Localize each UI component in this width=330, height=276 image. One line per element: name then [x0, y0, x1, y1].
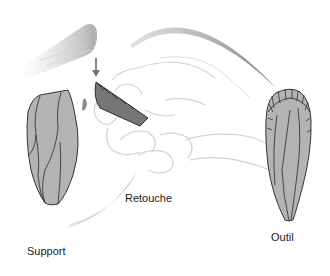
label-outil: Outil — [271, 231, 294, 243]
outil-tool — [266, 89, 311, 221]
hammer-icon — [10, 24, 97, 82]
diagram-canvas: Retouche Support Outil — [0, 0, 330, 276]
label-support: Support — [27, 245, 66, 257]
flow-arc-top — [130, 28, 276, 98]
strike-arrow-icon — [92, 58, 100, 77]
label-retouche: Retouche — [125, 192, 172, 204]
support-blank — [27, 90, 78, 205]
